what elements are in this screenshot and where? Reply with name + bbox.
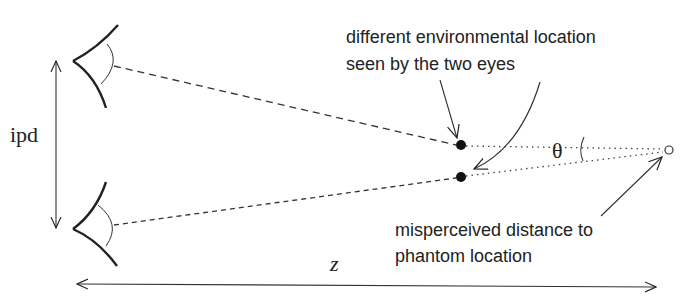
bottom-eye-icon (73, 182, 117, 266)
z-distance-arrow (77, 284, 656, 287)
bottom-annotation: misperceived distance to phantom locatio… (395, 220, 598, 266)
ipd-label: ipd (10, 122, 38, 147)
phantom-point (665, 146, 673, 154)
z-label: z (329, 251, 339, 276)
top-sight-line (114, 66, 456, 145)
stereo-misperception-diagram: ipd θ different environmental location s… (0, 0, 691, 305)
bottom-annotation-arrow (601, 157, 662, 216)
curved-annotation-arrow (474, 82, 540, 169)
bottom-sight-line (114, 178, 456, 225)
environment-point-top (456, 140, 466, 150)
top-eye-icon (73, 25, 118, 108)
angle-arc (581, 137, 584, 161)
theta-label: θ (552, 138, 563, 163)
environment-point-bottom (456, 172, 466, 182)
top-annotation: different environmental location seen by… (346, 27, 601, 74)
top-projection-line (466, 146, 663, 149)
top-annotation-arrow (440, 80, 457, 138)
